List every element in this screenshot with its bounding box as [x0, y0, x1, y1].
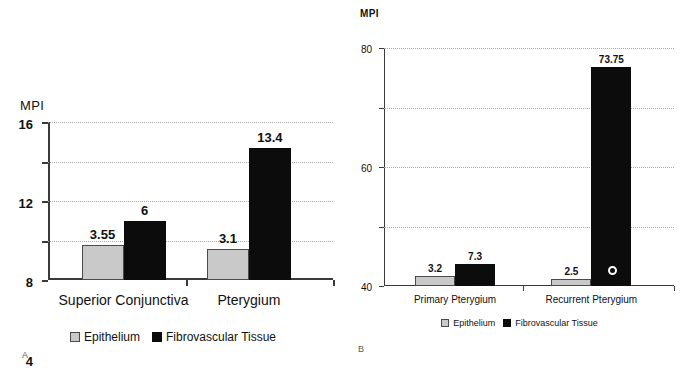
legend-item-epithelium-a: Epithelium [70, 330, 140, 344]
y-axis-tick-label: 8 [26, 275, 33, 290]
x-axis-category-label: Recurrent Pterygium [545, 294, 637, 305]
y-axis-tick: 0 [42, 280, 48, 282]
plot-area-a: 04812163.5563.113.4 [48, 122, 333, 280]
bar-fibrovascular [124, 221, 166, 280]
plot-area-b: 0204060803.27.32.573.75 [384, 48, 674, 286]
y-axis-tick-label: 80 [361, 44, 372, 55]
legend-a: Epithelium Fibrovascular Tissue [0, 330, 346, 344]
legend-swatch-epithelium-icon [70, 332, 80, 342]
bar-value-label: 3.55 [90, 227, 115, 242]
bar-epithelium [551, 279, 591, 286]
legend-label-epithelium: Epithelium [84, 330, 140, 344]
x-axis-category-label: Primary Pterygium [414, 294, 496, 305]
legend-b: Epithelium Fibrovascular Tissue [346, 318, 693, 328]
y-axis-title-b: MPI [360, 8, 379, 19]
bar-value-label: 73.75 [599, 54, 624, 65]
x-axis-category-label: Pterygium [217, 292, 280, 308]
bar-fibrovascular [455, 264, 495, 286]
panel-letter-b: B [358, 344, 364, 354]
legend-item-fibrovascular-a: Fibrovascular Tissue [152, 330, 276, 344]
bar-fibrovascular [591, 67, 631, 286]
legend-label-fibrovascular: Fibrovascular Tissue [515, 318, 598, 328]
y-axis-tick-label: 60 [361, 163, 372, 174]
y-axis-tick-label: 16 [19, 117, 33, 132]
bar-value-label: 6 [141, 203, 148, 218]
y-axis-tick: 40 [379, 167, 384, 168]
bar-epithelium [207, 249, 249, 280]
legend-swatch-fibrovascular-icon [152, 332, 162, 342]
chart-panel-b: MPI 0204060803.27.32.573.75 B Epithelium… [346, 0, 693, 373]
y-axis-tick: 20 [379, 227, 384, 228]
y-axis-tick: 60 [379, 108, 384, 109]
y-axis-tick: 12 [42, 162, 48, 164]
y-axis-tick: 16 [42, 122, 48, 124]
bar-value-label: 3.1 [219, 231, 237, 246]
panel-letter-a: A [22, 350, 28, 360]
legend-label-fibrovascular: Fibrovascular Tissue [166, 330, 276, 344]
y-axis-tick: 80 [379, 48, 384, 49]
y-axis-tick: 4 [42, 241, 48, 243]
bar-value-label: 13.4 [257, 130, 282, 145]
y-axis-title-a: MPI [20, 98, 44, 113]
gridline [384, 48, 674, 49]
bar-value-label: 7.3 [468, 251, 482, 262]
bar-epithelium [82, 245, 124, 280]
bar-value-label: 2.5 [564, 266, 578, 277]
legend-swatch-fibrovascular-icon [503, 319, 511, 327]
y-axis-tick-label: 40 [361, 282, 372, 293]
x-axis-category-label: Superior Conjunctiva [59, 292, 189, 308]
scan-artifact-dot [608, 266, 617, 275]
legend-swatch-epithelium-icon [441, 319, 449, 327]
bar-value-label: 3.2 [428, 263, 442, 274]
y-axis-tick: 8 [42, 201, 48, 203]
x-axis-group-separator-tick [523, 286, 524, 291]
legend-item-fibrovascular-b: Fibrovascular Tissue [503, 318, 598, 328]
bar-epithelium [415, 276, 455, 286]
y-axis-tick-label: 12 [19, 196, 33, 211]
gridline [48, 122, 333, 123]
y-axis-tick: 0 [379, 286, 384, 287]
x-axis-group-separator-tick [186, 280, 188, 286]
x-axis-end-tick [333, 280, 335, 286]
chart-panel-a: MPI 04812163.5563.113.4 A Epithelium Fib… [0, 0, 346, 373]
legend-label-epithelium: Epithelium [453, 318, 495, 328]
x-axis-end-tick [674, 286, 675, 291]
legend-item-epithelium-b: Epithelium [441, 318, 495, 328]
bar-fibrovascular [249, 148, 291, 280]
